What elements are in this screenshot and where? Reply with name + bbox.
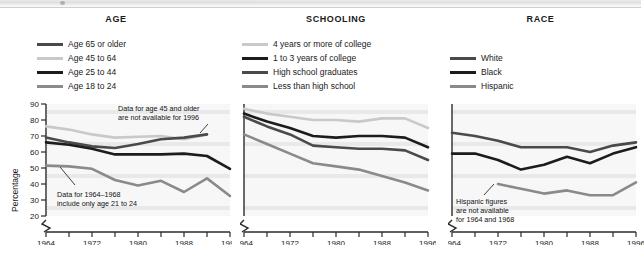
x-tick-labels: 1964 1972 1980 1988 1996 [448,239,644,245]
svg-text:1988: 1988 [581,239,599,245]
panel-race-title: RACE [440,14,641,24]
x-axis: 1964 1972 1980 1988 1996 [448,232,644,245]
annotation-line: are not available [456,206,514,215]
annotation-line: Data for 1964–1968 [57,190,137,199]
panel-race: RACE White Black Hispanic [440,0,641,259]
legend-label: 1 to 3 years of college [273,53,356,63]
svg-text:1996: 1996 [627,239,644,245]
legend-swatch-4-years-or-more-of-college [242,43,268,46]
legend-item[interactable]: Hispanic [450,80,514,92]
axis-break-marker [240,220,248,232]
svg-text:1972: 1972 [281,239,299,245]
legend-label: Age 45 to 64 [68,53,116,63]
legend-item[interactable]: Black [450,66,514,78]
legend-label: Age 18 to 24 [68,81,116,91]
legend-swatch-high-school-graduates [242,71,268,74]
legend-item[interactable]: Age 45 to 64 [37,52,126,64]
legend-label: Less than high school [273,81,355,91]
legend-item[interactable]: Less than high school [242,80,371,92]
svg-text:80: 80 [30,116,39,125]
annotation-line: include only age 21 to 24 [57,199,137,208]
svg-text:1964: 1964 [37,239,55,245]
annotation-age-bottom: Data for 1964–1968 include only age 21 t… [57,190,137,208]
legend-label: Black [481,67,502,77]
x-axis: 1964 1972 1980 1988 1996 [240,232,436,245]
svg-text:30: 30 [30,196,39,205]
x-axis: 1964 1972 1980 1988 1996 [37,232,232,245]
annotation-line: Data for age 45 and older [118,104,200,113]
x-tick-labels: 1964 1972 1980 1988 1996 [240,239,436,245]
svg-text:1972: 1972 [83,239,101,245]
svg-text:1964: 1964 [240,239,253,245]
svg-text:1980: 1980 [327,239,345,245]
panel-age: AGE Age 65 or older Age 45 to 64 Age 25 … [0,0,232,259]
axis-break-marker [448,220,456,232]
legend-item[interactable]: High school graduates [242,66,371,78]
legend-swatch-age-25-to-44 [37,71,63,74]
legend-race: White Black Hispanic [450,52,514,94]
y-tick-labels: 90 80 70 60 50 40 30 20 [30,100,39,221]
legend-item[interactable]: Age 25 to 44 [37,66,126,78]
plot-svg-schooling: 1964 1972 1980 1988 1996 [240,100,436,245]
legend-item[interactable]: 4 years or more of college [242,38,371,50]
legend-swatch-age-18-to-24 [37,85,63,88]
panel-age-title: AGE [0,14,232,24]
legend-label: Age 25 to 44 [68,67,116,77]
y-axis-label: Percentage [10,169,20,212]
legend-swatch-hispanic [450,85,476,88]
svg-text:1996: 1996 [419,239,436,245]
axis-break-marker [42,220,50,232]
legend-swatch-age-65-or-older [37,43,63,46]
legend-item[interactable]: Age 18 to 24 [37,80,126,92]
legend-swatch-white [450,57,476,60]
panel-schooling-title: SCHOOLING [232,14,440,24]
legend-swatch-black [450,71,476,74]
annotation-line: for 1964 and 1968 [456,215,514,224]
panel-schooling: SCHOOLING 4 years or more of college 1 t… [232,0,440,259]
legend-label: 4 years or more of college [273,39,371,49]
legend-swatch-less-than-high-school [242,85,268,88]
legend-item[interactable]: White [450,52,514,64]
legend-schooling: 4 years or more of college 1 to 3 years … [242,38,371,94]
svg-text:50: 50 [30,164,39,173]
x-tick-labels: 1964 1972 1980 1988 1996 [37,239,232,245]
legend-label: Hispanic [481,81,514,91]
annotation-age-top: Data for age 45 and older are not availa… [118,104,200,122]
legend-item[interactable]: Age 65 or older [37,38,126,50]
svg-text:1972: 1972 [489,239,507,245]
svg-text:40: 40 [30,180,39,189]
legend-label: High school graduates [273,67,358,77]
annotation-line: are not available for 1996 [118,113,200,122]
svg-text:60: 60 [30,148,39,157]
svg-text:1964: 1964 [448,239,461,245]
svg-text:1988: 1988 [175,239,193,245]
svg-text:1980: 1980 [535,239,553,245]
legend-item[interactable]: 1 to 3 years of college [242,52,371,64]
legend-swatch-age-45-to-64 [37,57,63,60]
svg-text:70: 70 [30,132,39,141]
svg-text:20: 20 [30,212,39,221]
legend-age: Age 65 or older Age 45 to 64 Age 25 to 4… [37,38,126,94]
annotation-race: Hispanic figures are not available for 1… [456,197,514,225]
legend-label: Age 65 or older [68,39,126,49]
legend-swatch-1-to-3-years-of-college [242,57,268,60]
plot-schooling: 1964 1972 1980 1988 1996 [240,100,436,245]
svg-text:90: 90 [30,100,39,109]
legend-label: White [481,53,503,63]
annotation-line: Hispanic figures [456,197,514,206]
svg-text:1980: 1980 [129,239,147,245]
svg-text:1996: 1996 [221,239,232,245]
svg-text:1988: 1988 [373,239,391,245]
